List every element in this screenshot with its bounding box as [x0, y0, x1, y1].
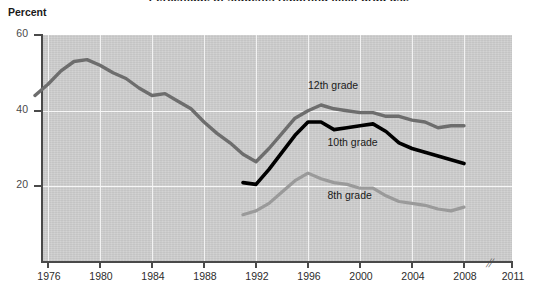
- chart-figure: Percentage of students reporting illicit…: [0, 0, 558, 288]
- series-label-12th-grade: 12th grade: [308, 79, 358, 91]
- series-line-10th-grade: [243, 122, 464, 184]
- series-lines: [0, 0, 558, 288]
- series-label-10th-grade: 10th grade: [328, 136, 378, 148]
- series-label-8th-grade: 8th grade: [328, 189, 372, 201]
- series-line-12th-grade: [35, 60, 464, 162]
